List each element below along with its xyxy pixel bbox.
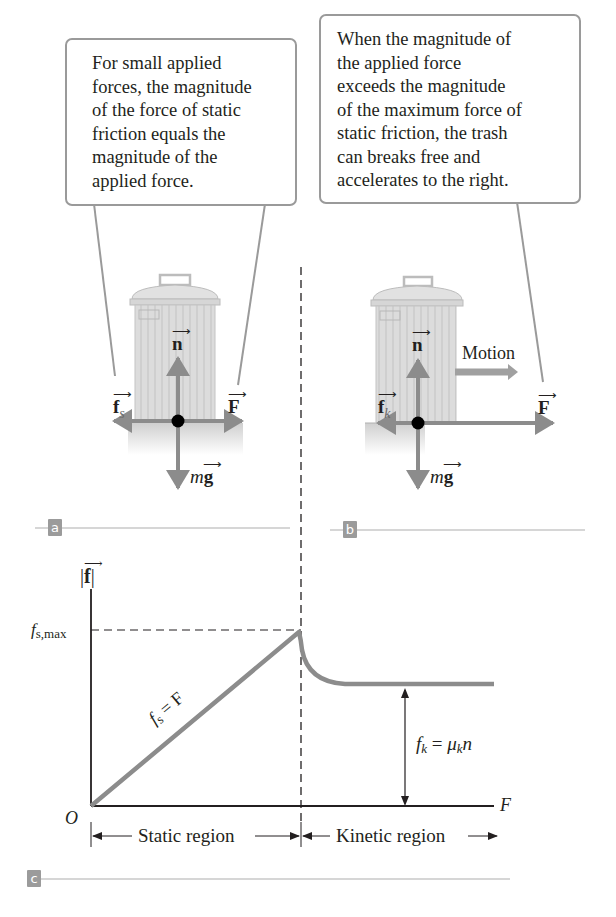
motion-arrow-head	[508, 364, 518, 380]
callout-a-line: magnitude of the	[92, 146, 285, 170]
callout-a-pointer-left	[94, 204, 115, 376]
center-of-mass-a	[172, 415, 185, 428]
callout-a-line: of the force of static	[92, 99, 285, 123]
static-friction-label: ⟶fs	[113, 396, 125, 418]
normal-vector-label-a: ⟶n	[172, 333, 183, 355]
fs-max-label: fs,max	[31, 620, 66, 640]
vector-arrow-icon: ⟶	[172, 324, 190, 340]
kinetic-region-label: Kinetic region	[336, 825, 445, 847]
applied-force-label-a: ⟶F	[228, 396, 240, 418]
vector-arrow-icon: ⟶	[538, 388, 556, 404]
vector-arrow-icon: ⟶	[378, 387, 396, 403]
callout-panel-a: For small applied forces, the magnitude …	[65, 38, 297, 206]
callout-b-line: of the maximum force of	[337, 99, 571, 123]
kinetic-friction-label: ⟶fk	[378, 396, 391, 418]
applied-force-label-b: ⟶F	[538, 397, 550, 419]
weight-label-b: m⟶g	[430, 466, 453, 488]
callout-a-line: For small applied	[92, 52, 285, 76]
callout-b-line: the applied force	[337, 52, 571, 76]
callout-a-line: friction equals the	[92, 123, 285, 147]
callout-panel-b: When the magnitude of the applied force …	[319, 14, 581, 204]
callout-b-line: exceeds the magnitude	[337, 75, 571, 99]
callout-b-line: When the magnitude of	[337, 28, 571, 52]
weight-label-a: m⟶g	[190, 466, 213, 488]
vector-arrow-icon: ⟶	[113, 387, 131, 403]
vector-arrow-icon: ⟶	[84, 556, 103, 572]
motion-label: Motion	[462, 343, 515, 364]
normal-vector-label-b: ⟶n	[412, 334, 423, 356]
static-region-label: Static region	[138, 825, 235, 847]
vector-arrow-icon: ⟶	[228, 387, 246, 403]
callout-b-line: can breaks free and	[337, 146, 571, 170]
vector-arrow-icon: ⟶	[412, 325, 430, 341]
floor-a	[128, 423, 243, 455]
fk-equals-mu-n-label: fk = μkn	[416, 733, 472, 755]
panel-tag-b: b	[343, 521, 357, 538]
callout-b-line: static friction, the trash	[337, 122, 571, 146]
x-axis-label: F	[500, 795, 511, 816]
callout-a-line: forces, the magnitude	[92, 76, 285, 100]
center-of-mass-b	[412, 417, 425, 430]
vector-arrow-icon: ⟶	[203, 457, 221, 473]
panel-tag-a: a	[48, 519, 62, 536]
callout-b-pointer	[517, 202, 543, 382]
panel-tag-c: c	[27, 870, 41, 887]
callout-a-pointer-right	[238, 204, 265, 385]
origin-label: O	[65, 808, 78, 829]
vector-arrow-icon: ⟶	[443, 457, 461, 473]
callout-b-line: accelerates to the right.	[337, 169, 571, 193]
callout-a-line: applied force.	[92, 170, 285, 194]
y-axis-label: |⟶f|	[80, 565, 95, 588]
